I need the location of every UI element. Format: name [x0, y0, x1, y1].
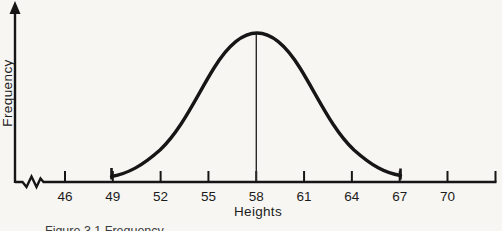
x-tick-label-52: 52 [153, 189, 168, 204]
x-axis-tick-labels: 464952555861646770 [57, 189, 455, 204]
y-axis-arrow-icon [10, 1, 21, 14]
frequency-distribution-chart: 464952555861646770 Frequency Heights Fig… [0, 0, 502, 231]
x-tick-label-70: 70 [440, 189, 455, 204]
x-tick-label-64: 64 [344, 189, 360, 204]
figure-caption: Figure 3.1 Frequency [45, 224, 164, 231]
chart-canvas: 464952555861646770 [0, 0, 502, 231]
x-tick-label-55: 55 [201, 189, 216, 204]
x-tick-label-58: 58 [249, 189, 264, 204]
x-axis-label: Heights [234, 204, 282, 219]
x-tick-label-49: 49 [105, 189, 120, 204]
y-axis-label: Frequency [0, 59, 15, 126]
x-tick-label-61: 61 [297, 189, 312, 204]
x-tick-label-46: 46 [57, 189, 72, 204]
x-tick-label-67: 67 [392, 189, 407, 204]
